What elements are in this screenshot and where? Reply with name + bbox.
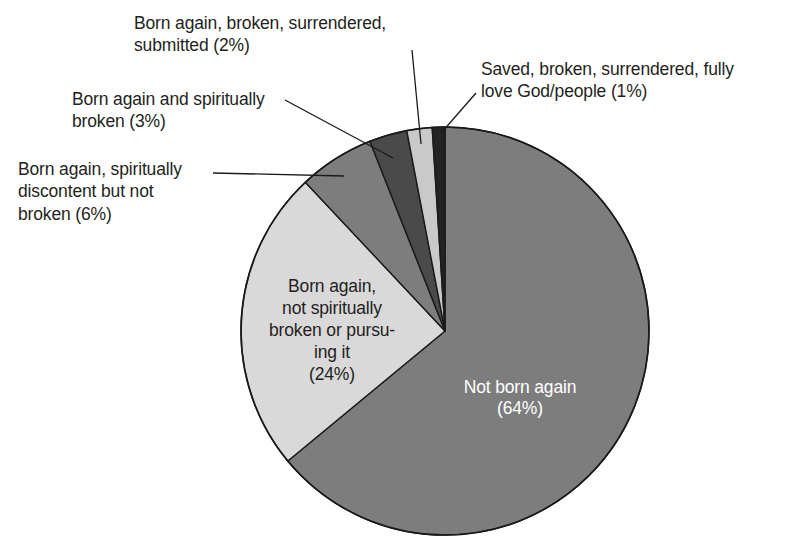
- slice-label-born-again-line5: (24%): [309, 364, 355, 384]
- slice-label-not-born-again-value: (64%): [497, 398, 543, 418]
- callout-label-saved-fully-love: Saved, broken, surrendered, fully love G…: [481, 58, 781, 103]
- leader-line-saved: [442, 93, 476, 132]
- callout-label-born-again-discontent: Born again, spiritually discontent but n…: [18, 158, 233, 225]
- slice-label-not-born-again-title: Not born again: [464, 377, 577, 397]
- slice-label-born-again-line4: ing it: [314, 342, 350, 362]
- slice-label-born-again-line1: Born again,: [288, 276, 376, 296]
- slice-label-born-again-line3: broken or pursu-: [269, 320, 395, 340]
- callout-label-born-again-broken: Born again and spiritually broken (3%): [72, 88, 372, 133]
- slice-label-born-again-line2: not spiritually: [282, 298, 382, 318]
- pie-chart-figure: Not born again (64%) Born again, not spi…: [0, 0, 787, 550]
- callout-label-born-again-submitted: Born again, broken, surrendered, submitt…: [134, 12, 464, 57]
